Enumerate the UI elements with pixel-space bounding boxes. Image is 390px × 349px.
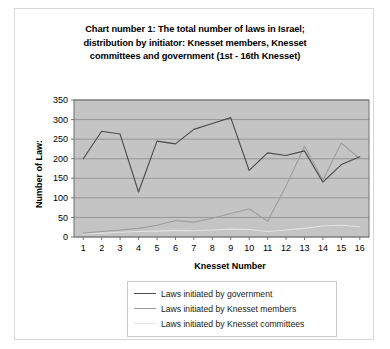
legend-item-government: Laws initiated by government (134, 286, 330, 301)
x-axis-tick-label: 3 (118, 243, 123, 253)
chart-container: Chart number 1: The total number of laws… (14, 8, 374, 340)
y-axis-tick-label: 200 (53, 154, 68, 164)
x-axis-tick-label: 9 (228, 243, 233, 253)
legend-swatch-government-icon (134, 289, 156, 298)
x-axis-label: Knesset Number (75, 261, 385, 271)
y-axis-tick-label: 50 (58, 213, 68, 223)
y-axis-tick-label: 250 (53, 134, 68, 144)
y-axis-tick-label: 350 (53, 95, 68, 105)
legend-item-knesset-committees: Laws initiated by Knesset committees (134, 316, 330, 331)
x-axis-tick-label: 5 (154, 243, 159, 253)
chart-legend: Laws initiated by government Laws initia… (127, 281, 337, 337)
x-axis-tick-label: 1 (81, 243, 86, 253)
x-axis-tick-label: 6 (173, 243, 178, 253)
x-axis-tick-label: 14 (318, 243, 328, 253)
x-axis-tick-label: 11 (263, 243, 272, 253)
x-axis-tick-label: 2 (99, 243, 104, 253)
y-axis-tick-label: 300 (53, 115, 68, 125)
y-axis-tick-label: 150 (53, 173, 68, 183)
legend-label-knesset-committees: Laws initiated by Knesset committees (161, 319, 304, 329)
x-axis-tick-label: 7 (191, 243, 196, 253)
legend-swatch-knesset-committees-icon (134, 319, 156, 328)
x-axis-tick-label: 15 (336, 243, 346, 253)
x-axis-tick-label: 12 (281, 243, 291, 253)
line-chart-plot: 0501001502002503003501234567891011121314… (15, 9, 375, 269)
legend-label-government: Laws initiated by government (161, 289, 272, 299)
x-axis-tick-label: 16 (355, 243, 365, 253)
x-axis-tick-label: 10 (244, 243, 254, 253)
x-axis-tick-label: 4 (136, 243, 141, 253)
y-axis-tick-label: 100 (53, 193, 68, 203)
y-axis-tick-label: 0 (63, 232, 68, 242)
legend-item-knesset-members: Laws initiated by Knesset members (134, 301, 330, 316)
legend-label-knesset-members: Laws initiated by Knesset members (161, 304, 296, 314)
legend-swatch-knesset-members-icon (134, 304, 156, 313)
x-axis-tick-label: 13 (299, 243, 309, 253)
x-axis-tick-label: 8 (210, 243, 215, 253)
